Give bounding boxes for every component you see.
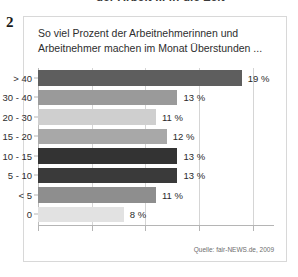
bar [38, 207, 124, 223]
category-label: 0 [27, 209, 32, 220]
bar [38, 129, 167, 145]
bar-value-label: 8 % [130, 209, 146, 220]
chart-title: So viel Prozent der Arbeitnehmerinnen un… [38, 26, 276, 55]
category-label: 15 - 20 [2, 131, 32, 142]
category-label: < 5 [19, 189, 32, 200]
bar-value-label: 13 % [183, 150, 205, 161]
bar-row: 5 - 1013 % [38, 166, 274, 186]
category-label: > 40 [13, 72, 32, 83]
bar-row: 10 - 1513 % [38, 146, 274, 166]
bar [38, 148, 177, 164]
bar-value-label: 11 % [162, 111, 183, 122]
x-tick-0 [38, 226, 39, 231]
bar-value-label: 19 % [248, 72, 270, 83]
bar-value-label: 13 % [183, 170, 205, 181]
x-tick-15 [199, 226, 200, 231]
x-tick-10 [145, 226, 146, 231]
bar-row: 08 % [38, 205, 274, 225]
bar-row: 15 - 2012 % [38, 127, 274, 147]
bar [38, 187, 156, 203]
bar-value-label: 12 % [173, 131, 195, 142]
x-tick-5 [92, 226, 93, 231]
category-label: 30 - 40 [2, 92, 32, 103]
figure-number: 2 [6, 14, 14, 31]
clipped-headline-text: der Arbeit ... in die Zeit [96, 0, 225, 3]
bar-row: < 511 % [38, 185, 274, 205]
category-label: 5 - 10 [8, 170, 32, 181]
source-note: Quelle: fair-NEWS.de, 2009 [194, 246, 274, 253]
bar [38, 70, 242, 86]
bar [38, 168, 177, 184]
category-label: 20 - 30 [2, 111, 32, 122]
bar-value-label: 13 % [183, 92, 205, 103]
x-tick-20 [253, 226, 254, 231]
bar-value-label: 11 % [162, 189, 183, 200]
bar-row: 20 - 3011 % [38, 107, 274, 127]
bar-row: > 4019 % [38, 68, 274, 88]
clipped-headline-strip: der Arbeit ... in die Zeit [0, 0, 298, 10]
bar [38, 90, 177, 106]
bar-row: 30 - 4013 % [38, 88, 274, 108]
chart-panel: So viel Prozent der Arbeitnehmerinnen un… [23, 16, 287, 262]
bar [38, 109, 156, 125]
x-axis-line [38, 225, 274, 226]
category-label: 10 - 15 [2, 150, 32, 161]
plot-area: > 4019 %30 - 4013 %20 - 3011 %15 - 2012 … [38, 68, 274, 234]
